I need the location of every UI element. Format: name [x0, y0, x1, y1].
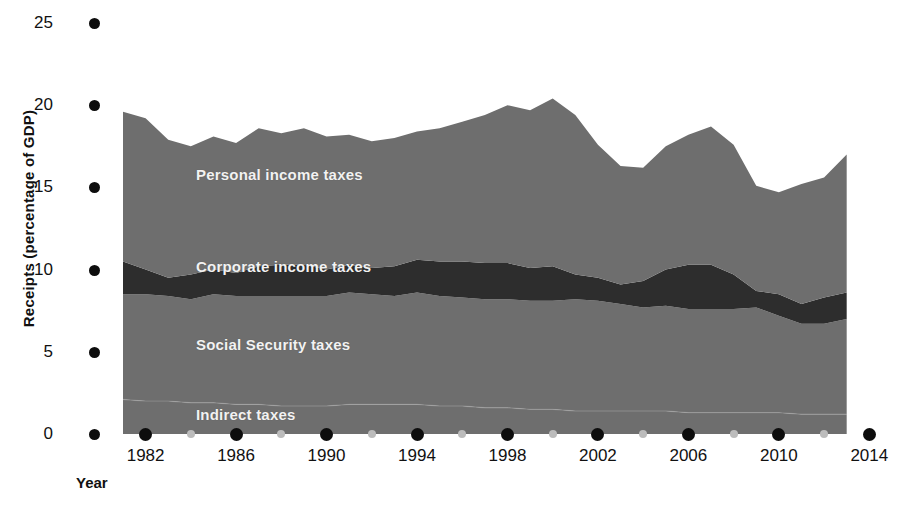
x-tick-major-dot-icon [501, 428, 514, 441]
x-tick-label-1998: 1998 [489, 446, 527, 466]
x-tick-minor-dot-icon [820, 430, 828, 438]
x-tick-label-2006: 2006 [669, 446, 707, 466]
x-tick-label-2002: 2002 [579, 446, 617, 466]
x-tick-label-1982: 1982 [127, 446, 165, 466]
x-tick-label-2014: 2014 [850, 446, 888, 466]
series-label-indirect-taxes: Indirect taxes [196, 406, 296, 423]
x-tick-label-1994: 1994 [398, 446, 436, 466]
x-tick-major-dot-icon [863, 428, 876, 441]
x-tick-minor-dot-icon [730, 430, 738, 438]
x-tick-major-dot-icon [682, 428, 695, 441]
x-tick-minor-dot-icon [187, 430, 195, 438]
stacked-area-chart: Receipts (percentage of GDP) 0510152025 … [0, 0, 919, 528]
x-axis-title: Year [76, 474, 108, 491]
series-label-corporate-income-taxes: Corporate income taxes [196, 258, 371, 275]
series-label-personal-income-taxes: Personal income taxes [196, 166, 363, 183]
x-tick-major-dot-icon [411, 428, 424, 441]
x-tick-label-1986: 1986 [217, 446, 255, 466]
x-tick-major-dot-icon [591, 428, 604, 441]
x-tick-major-dot-icon [139, 428, 152, 441]
x-tick-minor-dot-icon [549, 430, 557, 438]
x-tick-label-2010: 2010 [760, 446, 798, 466]
area-series-social-security-taxes [123, 293, 847, 415]
x-tick-major-dot-icon [230, 428, 243, 441]
x-tick-label-1990: 1990 [308, 446, 346, 466]
x-tick-major-dot-icon [772, 428, 785, 441]
x-tick-major-dot-icon [320, 428, 333, 441]
x-tick-minor-dot-icon [368, 430, 376, 438]
series-label-social-security-taxes: Social Security taxes [196, 336, 350, 353]
